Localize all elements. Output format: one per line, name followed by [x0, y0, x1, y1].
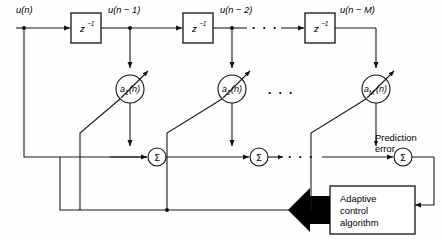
ellipsis-top-row: · · ·	[252, 21, 279, 35]
summation-label-M: Σ	[400, 152, 406, 163]
prediction-error-label-line2: error	[375, 143, 395, 154]
summation-label-2: Σ	[256, 152, 262, 163]
svg-text:(n): (n)	[129, 84, 140, 94]
svg-text:z: z	[191, 23, 197, 34]
adaptive-filter-diagram: u(n) u(n − 1) u(n − 2) u(n − M) z −1 z −…	[0, 0, 444, 239]
junction-dot-bus	[165, 208, 169, 212]
control-block-label-line2: control	[340, 205, 368, 216]
svg-text:−1: −1	[87, 20, 95, 27]
svg-text:z: z	[79, 23, 85, 34]
control-block-label-line1: Adaptive	[340, 193, 376, 204]
svg-text:−1: −1	[199, 20, 207, 27]
svg-text:(n): (n)	[376, 84, 387, 94]
delay-block-1	[71, 13, 101, 43]
svg-text:−1: −1	[321, 20, 329, 27]
weight-update-bus-arrow	[288, 188, 330, 232]
delay-block-M	[305, 13, 335, 43]
label-input-signal: u(n)	[16, 5, 33, 15]
ellipsis-adder-row: · · ·	[288, 150, 315, 164]
label-tap1-signal: u(n − 1)	[108, 5, 140, 15]
svg-text:M: M	[369, 89, 375, 96]
summation-label-1: Σ	[154, 152, 160, 163]
control-block-label-line3: algorithm	[340, 217, 379, 228]
label-tap2-signal: u(n − 2)	[220, 5, 252, 15]
svg-text:z: z	[313, 23, 319, 34]
wire-update-bus	[60, 190, 292, 210]
wire-update-to-coefM	[311, 99, 366, 190]
wire-update-to-coef1	[80, 99, 120, 190]
diagram-canvas: u(n) u(n − 1) u(n − 2) u(n − M) z −1 z −…	[0, 0, 444, 239]
svg-text:(n): (n)	[231, 84, 242, 94]
wire-update-to-coef2	[167, 99, 222, 190]
prediction-error-label-line1: Prediction	[375, 132, 417, 143]
label-tapM-signal: u(n − M)	[340, 5, 375, 15]
ellipsis-coefficient-row: · · ·	[268, 86, 295, 100]
delay-block-2	[183, 13, 213, 43]
